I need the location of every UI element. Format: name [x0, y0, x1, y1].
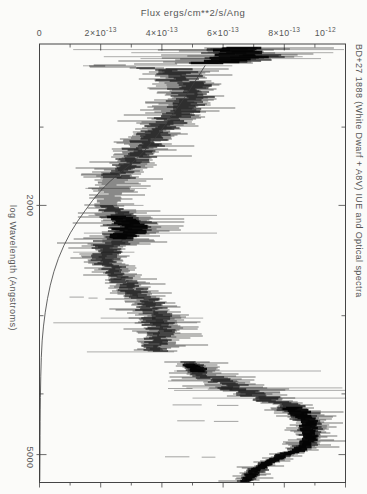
y-tick-label: 2000	[25, 194, 35, 216]
x-tick-label: 10-12	[315, 26, 336, 37]
plot-generated-layer: 02×10-134×10-136×10-138×10-1310-12200050…	[25, 26, 346, 487]
right-annotation: BD+27 1888 (White Dwarf + A8V) IUE and O…	[354, 44, 364, 298]
x-tick-label: 0	[37, 28, 42, 38]
spectrum-plot: 02×10-134×10-136×10-138×10-1310-12200050…	[0, 0, 367, 494]
y-tick-label: 5000	[25, 447, 35, 469]
x-tick-label: 4×10-13	[146, 26, 178, 37]
y-axis-title: log Wavelength (Angstroms)	[8, 205, 18, 331]
x-tick-label: 8×10-13	[268, 26, 300, 37]
x-tick-label: 2×10-13	[85, 26, 117, 37]
x-axis-title: Flux ergs/cm**2/s/Ang	[141, 7, 245, 18]
x-tick-label: 6×10-13	[207, 26, 239, 37]
figure-root: 02×10-134×10-136×10-138×10-1310-12200050…	[0, 0, 367, 494]
